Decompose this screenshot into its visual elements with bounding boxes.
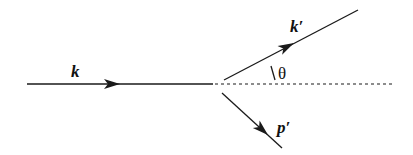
recoil-label: p′ <box>275 118 290 137</box>
scattering-diagram: k k′ p′ θ <box>0 0 413 155</box>
scattered-label: k′ <box>290 17 303 36</box>
angle-label: θ <box>278 64 286 83</box>
angle-arc-mark <box>271 66 275 80</box>
recoil-momentum-line <box>222 93 282 148</box>
incoming-label: k <box>71 62 80 81</box>
scattered-arrow-icon <box>278 39 297 55</box>
